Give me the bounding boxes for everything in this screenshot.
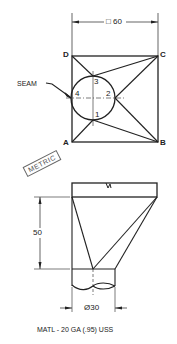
point-4-label: 4 [75,90,79,98]
width-dimension-label: □ 60 [106,18,122,26]
point-2-label: 2 [106,90,110,98]
material-note: MATL - 20 GA (.95) USS [37,326,113,333]
corner-d-label: D [63,51,69,59]
corner-c-label: C [160,51,166,59]
point-3-label: 3 [94,78,98,86]
height-dimension-label: 50 [33,229,42,237]
diameter-dimension-label: Ø30 [84,304,99,312]
drawing-canvas: □ 60 D C A B SEAM 3 2 4 1 METRIC 50 Ø30 … [0,0,177,344]
corner-a-label: A [63,139,69,147]
point-1-label: 1 [95,111,99,119]
corner-b-label: B [160,139,166,147]
seam-label: SEAM [17,80,37,87]
